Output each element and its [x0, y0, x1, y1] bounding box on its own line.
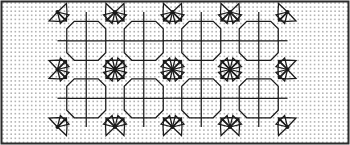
lattice-vertex-dot [286, 10, 290, 14]
lattice-vertex-dot [228, 68, 232, 72]
tiling-canvas [0, 0, 350, 145]
lattice-vertex-dot [56, 125, 60, 129]
lattice-vertex-dot [286, 68, 290, 72]
lattice-vertex-dot [113, 68, 117, 72]
lattice-vertex-dot [171, 68, 175, 72]
lattice-vertex-dot [286, 125, 290, 129]
lattice-vertex-dot [171, 10, 175, 14]
lattice-vertex-dot [113, 10, 117, 14]
lattice-vertex-dot [171, 125, 175, 129]
lattice-vertex-dot [228, 10, 232, 14]
lattice-vertex-dot [113, 125, 117, 129]
lattice-vertex-dot [56, 68, 60, 72]
lattice-vertex-dot [228, 125, 232, 129]
lattice-vertex-dot [56, 10, 60, 14]
diagram-frame [0, 0, 350, 145]
